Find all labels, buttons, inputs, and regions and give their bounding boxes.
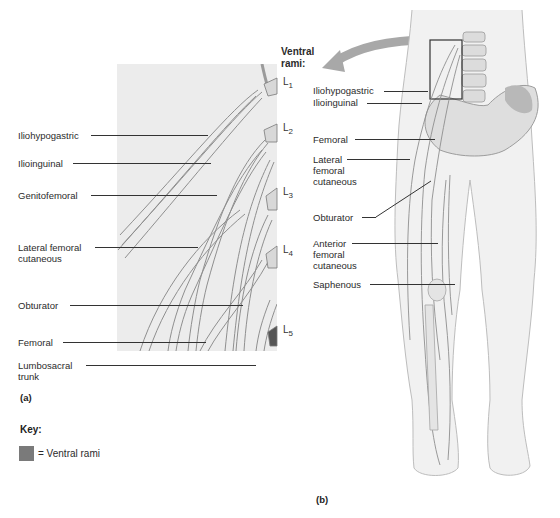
label-b-obturator: Obturator bbox=[313, 212, 353, 223]
leader-b-anterior-femoral-cutaneous bbox=[352, 243, 438, 244]
label-b-ilioinguinal: Ilioinguinal bbox=[313, 97, 358, 108]
leader-b-iliohypogastric bbox=[384, 91, 428, 92]
leader-b-femoral bbox=[355, 139, 435, 140]
leader-b-lateral-femoral-cutaneous bbox=[347, 159, 410, 160]
label-b-anterior-femoral-cutaneous: Anterior femoral cutaneous bbox=[313, 238, 357, 271]
label-b-femoral: Femoral bbox=[313, 134, 348, 145]
label-b-saphenous: Saphenous bbox=[313, 279, 361, 290]
leader-b-ilioinguinal bbox=[367, 103, 422, 104]
leader-b-obturator bbox=[362, 217, 376, 218]
leader-b-saphenous bbox=[370, 284, 455, 285]
label-b-iliohypogastric: Iliohypogastric bbox=[313, 85, 374, 96]
figure-label-b: (b) bbox=[316, 494, 328, 505]
panel-b-body-illustration bbox=[0, 0, 560, 518]
